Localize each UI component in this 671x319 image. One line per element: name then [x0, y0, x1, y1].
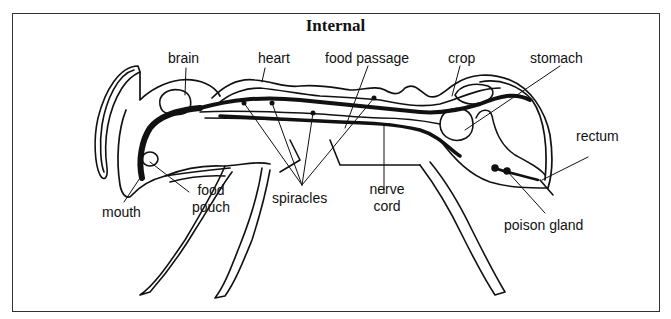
label-stomach: stomach — [530, 50, 583, 66]
label-nerve-cord-line1: nerve — [366, 181, 408, 197]
poison-gland-shape — [493, 166, 539, 181]
label-mouth: mouth — [102, 204, 141, 220]
label-food-pouch-line2: pouch — [188, 199, 234, 215]
nerve-cord-shape — [220, 116, 460, 156]
food-pouch-shape — [142, 152, 158, 166]
figure-title: Internal — [0, 16, 671, 36]
label-crop: crop — [448, 50, 475, 66]
thorax-and-legs — [140, 140, 505, 298]
label-heart: heart — [258, 50, 290, 66]
label-food-passage: food passage — [325, 50, 409, 66]
label-rectum: rectum — [576, 128, 619, 144]
label-poison-gland: poison gland — [504, 217, 583, 233]
label-food-pouch-line1: food — [188, 182, 234, 198]
ant-anatomy-drawing — [0, 0, 671, 319]
crop-shape — [455, 84, 493, 104]
stomach-shape — [440, 108, 473, 140]
gut-loop — [476, 110, 545, 175]
label-spiracles: spiracles — [272, 190, 327, 206]
label-brain: brain — [168, 50, 199, 66]
label-nerve-cord-line2: cord — [366, 198, 408, 214]
head-outline — [118, 72, 230, 197]
